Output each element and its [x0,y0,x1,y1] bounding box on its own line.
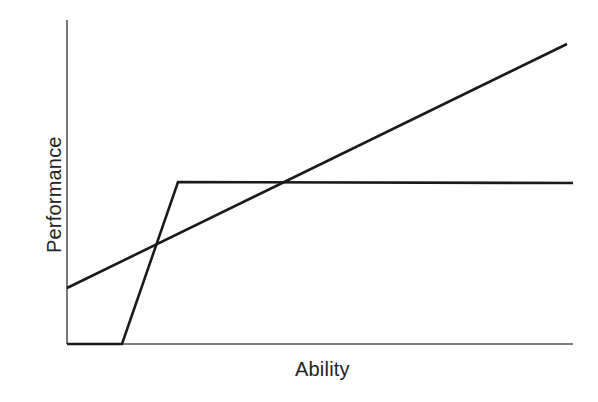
y-axis-label: Performance [43,136,66,253]
figure-background [0,0,598,402]
x-axis-label: Ability [295,358,350,381]
plot-area [0,0,598,402]
chart-figure: Performance Ability [0,0,598,402]
